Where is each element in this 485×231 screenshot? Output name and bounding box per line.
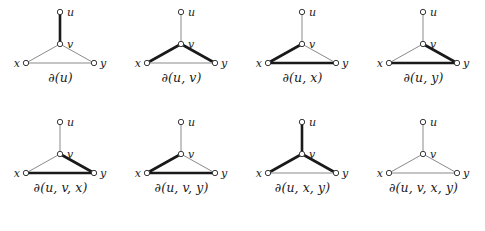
figure-3: uvxy∂(u, x)	[242, 4, 363, 114]
edge-v-x	[26, 154, 60, 173]
vertex-label-v: v	[309, 148, 316, 161]
vertex-v	[420, 151, 425, 156]
vertex-label-x: x	[135, 57, 142, 70]
vertex-v	[299, 151, 304, 156]
vertex-u	[178, 9, 183, 14]
figure-caption-7: ∂(u, x, y)	[242, 180, 363, 195]
edge-v-x	[389, 44, 423, 63]
vertex-y	[212, 60, 217, 65]
vertex-label-x: x	[377, 167, 384, 180]
edge-v-y	[423, 154, 457, 173]
vertex-label-y: y	[99, 167, 107, 180]
vertex-label-v: v	[309, 38, 316, 51]
graph-7: uvxy	[242, 114, 363, 184]
figure-caption-1: ∂(u)	[0, 70, 121, 85]
vertex-label-v: v	[430, 148, 437, 161]
edge-v-x	[389, 154, 423, 173]
vertex-u	[178, 119, 183, 124]
graph-8: uvxy	[363, 114, 484, 184]
vertex-label-v: v	[67, 148, 74, 161]
vertex-u	[57, 119, 62, 124]
vertex-label-u: u	[188, 116, 195, 129]
vertex-label-y: y	[220, 167, 228, 180]
figure-caption-5: ∂(u, v, x)	[0, 180, 121, 195]
vertex-label-y: y	[220, 57, 228, 70]
vertex-y	[212, 170, 217, 175]
vertex-x	[265, 170, 270, 175]
edge-v-x-boundary	[147, 154, 181, 173]
figure-5: uvxy∂(u, v, x)	[0, 114, 121, 224]
vertex-label-u: u	[188, 6, 195, 19]
vertex-v	[178, 151, 183, 156]
vertex-x	[265, 60, 270, 65]
edge-v-x-boundary	[268, 154, 302, 173]
edge-v-x	[26, 44, 60, 63]
figure-caption-2: ∂(u, v)	[121, 70, 242, 85]
vertex-label-x: x	[14, 167, 21, 180]
figure-caption-3: ∂(u, x)	[242, 70, 363, 85]
vertex-label-u: u	[309, 116, 316, 129]
vertex-label-y: y	[341, 167, 349, 180]
vertex-label-y: y	[462, 167, 470, 180]
vertex-label-u: u	[430, 116, 437, 129]
edge-v-y-boundary	[423, 44, 457, 63]
vertex-label-u: u	[67, 116, 74, 129]
vertex-label-x: x	[256, 57, 263, 70]
vertex-v	[57, 151, 62, 156]
graph-4: uvxy	[363, 4, 484, 74]
vertex-v	[57, 41, 62, 46]
edge-v-y-boundary	[302, 154, 336, 173]
graph-1: uvxy	[0, 4, 121, 74]
graph-6: uvxy	[121, 114, 242, 184]
edge-v-x-boundary	[268, 44, 302, 63]
figure-caption-4: ∂(u, y)	[363, 70, 484, 85]
vertex-u	[299, 119, 304, 124]
vertex-y	[91, 170, 96, 175]
vertex-label-x: x	[135, 167, 142, 180]
vertex-y	[333, 60, 338, 65]
vertex-label-y: y	[462, 57, 470, 70]
vertex-label-v: v	[430, 38, 437, 51]
vertex-x	[144, 170, 149, 175]
figure-6: uvxy∂(u, v, y)	[121, 114, 242, 224]
vertex-label-x: x	[377, 57, 384, 70]
vertex-v	[178, 41, 183, 46]
edge-v-y-boundary	[181, 44, 215, 63]
vertex-x	[23, 170, 28, 175]
figure-1: uvxy∂(u)	[0, 4, 121, 114]
edge-v-y	[302, 44, 336, 63]
edge-v-y-boundary	[60, 154, 94, 173]
vertex-x	[386, 60, 391, 65]
figure-grid: uvxy∂(u)uvxy∂(u, v)uvxy∂(u, x)uvxy∂(u, y…	[0, 4, 484, 224]
edge-v-x-boundary	[147, 44, 181, 63]
vertex-u	[420, 9, 425, 14]
vertex-u	[420, 119, 425, 124]
figure-8: uvxy∂(u, v, x, y)	[363, 114, 484, 224]
vertex-label-v: v	[188, 148, 195, 161]
figure-caption-6: ∂(u, v, y)	[121, 180, 242, 195]
vertex-y	[91, 60, 96, 65]
vertex-v	[420, 41, 425, 46]
vertex-u	[57, 9, 62, 14]
vertex-u	[299, 9, 304, 14]
vertex-label-x: x	[256, 167, 263, 180]
vertex-y	[454, 170, 459, 175]
vertex-label-v: v	[67, 38, 74, 51]
vertex-label-y: y	[99, 57, 107, 70]
vertex-v	[299, 41, 304, 46]
edge-v-y	[60, 44, 94, 63]
figure-caption-8: ∂(u, v, x, y)	[363, 180, 484, 195]
graph-5: uvxy	[0, 114, 121, 184]
vertex-label-u: u	[430, 6, 437, 19]
vertex-x	[386, 170, 391, 175]
graph-2: uvxy	[121, 4, 242, 74]
vertex-y	[333, 170, 338, 175]
edge-v-y	[181, 154, 215, 173]
figure-7: uvxy∂(u, x, y)	[242, 114, 363, 224]
vertex-label-x: x	[14, 57, 21, 70]
figure-panel: uvxy∂(u)uvxy∂(u, v)uvxy∂(u, x)uvxy∂(u, y…	[0, 0, 485, 231]
figure-2: uvxy∂(u, v)	[121, 4, 242, 114]
vertex-label-y: y	[341, 57, 349, 70]
vertex-label-u: u	[67, 6, 74, 19]
figure-4: uvxy∂(u, y)	[363, 4, 484, 114]
